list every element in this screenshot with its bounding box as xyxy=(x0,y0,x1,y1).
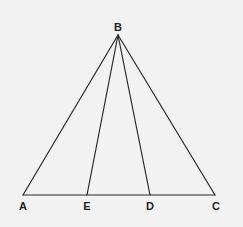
label-d: D xyxy=(146,200,154,212)
label-a: A xyxy=(19,200,27,212)
segment-bc xyxy=(118,35,215,195)
triangle-diagram: B A E D C xyxy=(0,0,243,227)
label-c: C xyxy=(212,200,220,212)
segment-bd xyxy=(118,35,150,195)
label-e: E xyxy=(83,200,90,212)
diagram-canvas: B A E D C xyxy=(0,0,243,227)
label-b: B xyxy=(114,21,122,33)
segment-ba xyxy=(23,35,118,195)
segment-be xyxy=(87,35,118,195)
